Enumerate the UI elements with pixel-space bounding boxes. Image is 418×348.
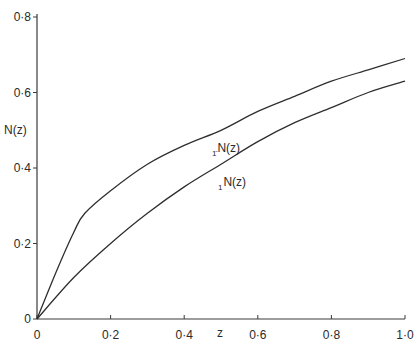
x-axis-title: z (217, 326, 223, 340)
curve-lower-1-N (37, 81, 405, 319)
chart: 00·20·40·60·81·000·20·40·60·8zN(z) 1̄N(z… (0, 0, 418, 348)
label-1-N-z: 1N(z) (218, 175, 246, 192)
y-tick-label: 0·6 (14, 86, 32, 100)
y-tick-label: 0·8 (14, 10, 32, 24)
x-tick-label: 0 (34, 328, 41, 342)
x-tick-label: 1·0 (396, 328, 414, 342)
x-tick-label: 0·8 (323, 328, 341, 342)
x-tick-label: 0·4 (176, 328, 194, 342)
axes: 00·20·40·60·81·000·20·40·60·8zN(z) (4, 10, 414, 342)
y-axis-title: N(z) (4, 123, 27, 137)
y-tick-label: 0·2 (14, 237, 32, 251)
x-tick-label: 0·2 (102, 328, 120, 342)
y-tick-label: 0·4 (14, 161, 32, 175)
y-tick-label: 0 (24, 312, 31, 326)
x-tick-label: 0·6 (249, 328, 267, 342)
